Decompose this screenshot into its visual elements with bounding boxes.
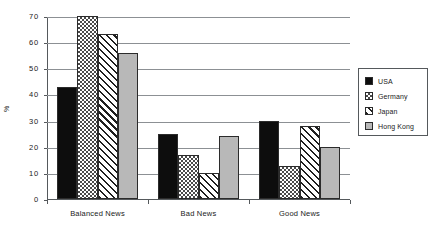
y-axis-tick-mark — [44, 95, 47, 96]
y-axis-tick-mark — [44, 174, 47, 175]
bar — [178, 155, 198, 199]
legend-item-label: Hong Kong — [378, 123, 414, 130]
legend-item-label: Japan — [378, 108, 398, 115]
y-axis-tick-label: 40 — [21, 90, 39, 99]
chart-legend: USAGermanyJapanHong Kong — [358, 68, 428, 136]
legend-item: Japan — [365, 105, 398, 117]
x-axis-tick-mark — [148, 200, 149, 204]
bar — [158, 134, 178, 199]
y-axis-tick-label: 50 — [21, 64, 39, 73]
x-axis-category-label: Bad News — [148, 209, 249, 218]
bar — [118, 53, 138, 199]
bar — [320, 147, 340, 199]
bar-group — [158, 17, 239, 199]
x-axis-tick-mark — [249, 200, 250, 204]
legend-item-label: Germany — [378, 93, 408, 100]
legend-swatch-icon — [365, 107, 373, 115]
legend-item: USA — [365, 75, 393, 87]
legend-swatch-icon — [365, 92, 373, 100]
bar — [300, 126, 320, 199]
x-axis-tick-mark — [350, 200, 351, 204]
bar — [279, 166, 299, 199]
y-axis-title: % — [3, 105, 10, 112]
x-axis-category-label: Good News — [249, 209, 350, 218]
y-axis-tick-label: 70 — [21, 12, 39, 21]
y-axis-tick-label: 0 — [21, 195, 39, 204]
legend-item: Hong Kong — [365, 120, 414, 132]
y-axis-tick-mark — [44, 43, 47, 44]
y-axis-tick-mark — [44, 17, 47, 18]
x-axis-tick-mark — [47, 200, 48, 204]
bar-group — [57, 17, 138, 199]
legend-swatch-icon — [365, 77, 373, 85]
plot-area — [47, 17, 350, 200]
x-axis-category-label: Balanced News — [47, 209, 148, 218]
x-axis-line — [47, 199, 350, 200]
bar — [199, 173, 219, 199]
y-axis-tick-mark — [44, 122, 47, 123]
bar — [259, 121, 279, 199]
y-axis-tick-mark — [44, 69, 47, 70]
legend-swatch-icon — [365, 122, 373, 130]
bar — [57, 87, 77, 199]
y-axis-line — [47, 17, 48, 200]
bar-chart: % 010203040506070 Balanced NewsBad NewsG… — [0, 0, 433, 236]
y-axis-tick-label: 20 — [21, 143, 39, 152]
bar — [98, 34, 118, 199]
bar-group — [259, 17, 340, 199]
y-axis-tick-mark — [44, 148, 47, 149]
legend-item: Germany — [365, 90, 408, 102]
bar — [219, 136, 239, 199]
legend-item-label: USA — [378, 78, 393, 85]
bar — [77, 16, 97, 199]
y-axis-tick-label: 60 — [21, 38, 39, 47]
y-axis-tick-label: 10 — [21, 169, 39, 178]
y-axis-tick-label: 30 — [21, 117, 39, 126]
